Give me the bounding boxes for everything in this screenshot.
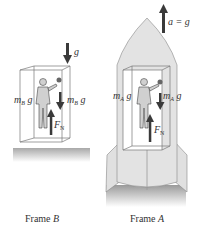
acceleration-arrow-icon bbox=[159, 4, 168, 33]
gravity-arrow-icon bbox=[63, 43, 72, 64]
normal-force-label: FN bbox=[53, 119, 65, 131]
frame-a: a = g mA g mA g FN Frame A bbox=[106, 4, 190, 224]
exhaust bbox=[106, 185, 186, 207]
ball-b-icon bbox=[57, 78, 62, 83]
gravity-label: g bbox=[74, 46, 79, 57]
diagram-canvas: g mB g mB g FN Frame B bbox=[0, 0, 203, 239]
frame-b: g mB g mB g FN Frame B bbox=[13, 43, 90, 224]
person-weight-label: mB g bbox=[14, 94, 32, 106]
frame-b-caption: Frame B bbox=[25, 213, 59, 224]
acceleration-label: a = g bbox=[168, 16, 190, 27]
ball-weight-label: mB g bbox=[67, 94, 85, 106]
ball-weight-arrow-icon bbox=[56, 92, 65, 110]
frame-a-caption: Frame A bbox=[130, 213, 165, 224]
ground bbox=[13, 148, 90, 162]
ball-a-icon bbox=[158, 80, 163, 85]
